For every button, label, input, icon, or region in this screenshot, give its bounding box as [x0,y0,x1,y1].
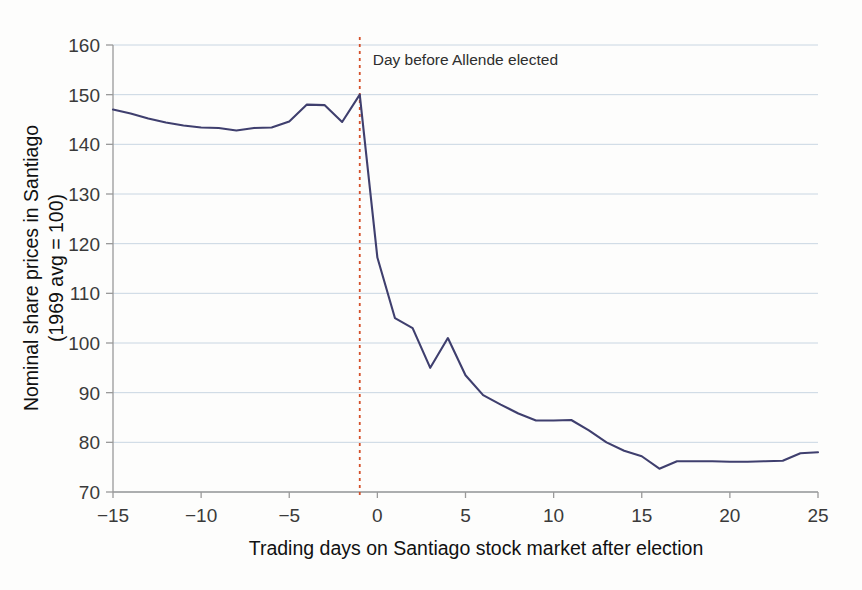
annotation-day-before-allende-elected: Day before Allende elected [373,51,558,68]
x-axis [113,492,818,498]
y-tick-label: 130 [68,184,100,205]
y-tick-label: 160 [68,35,100,56]
x-tick-label: −15 [97,505,129,526]
y-axis [106,45,113,492]
y-tick-label: 70 [79,482,100,503]
data-series-line [113,95,818,469]
series-path [113,95,818,469]
line-chart: 708090100110120130140150160 −15−10−50510… [0,0,862,590]
x-axis-title: Trading days on Santiago stock market af… [249,537,704,559]
x-tick-label: −5 [278,505,300,526]
y-axis-title-line1: Nominal share prices in Santiago [20,125,42,411]
x-tick-label: 0 [372,505,383,526]
x-tick-label: 15 [631,505,652,526]
chart-figure: 708090100110120130140150160 −15−10−50510… [0,0,862,590]
x-tick-label: −10 [185,505,217,526]
y-tick-label: 150 [68,85,100,106]
x-tick-labels: −15−10−50510152025 [97,505,829,526]
x-tick-label: 10 [543,505,564,526]
gridlines [113,45,818,492]
y-tick-label: 140 [68,134,100,155]
y-tick-label: 100 [68,333,100,354]
x-tick-label: 5 [460,505,471,526]
x-tick-label: 20 [719,505,740,526]
y-tick-labels: 708090100110120130140150160 [68,35,100,503]
y-tick-label: 110 [70,283,100,304]
x-tick-label: 25 [807,505,828,526]
y-tick-label: 80 [79,432,100,453]
y-tick-label: 120 [68,234,100,255]
y-tick-label: 90 [79,383,100,404]
y-axis-title-line2: (1969 avg = 100) [45,194,67,342]
